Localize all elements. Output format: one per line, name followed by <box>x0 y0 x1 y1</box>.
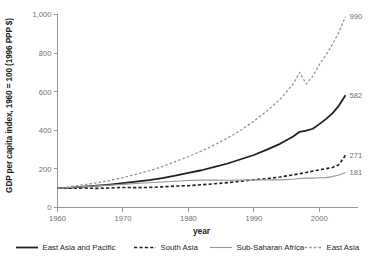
legend-label: South Asia <box>161 243 199 252</box>
y-tick-label: 0 <box>47 203 51 212</box>
chart-legend: East Asia and PacificSouth AsiaSub-Sahar… <box>16 243 360 252</box>
y-tick-label: 600 <box>39 88 52 97</box>
x-tick-label: 1990 <box>245 214 262 223</box>
series-end-label: 990 <box>350 12 363 21</box>
y-tick-label: 1,000 <box>32 10 51 19</box>
x-tick-label: 1970 <box>115 214 132 223</box>
chart-figure: GDP per capita index, 1960 = 100 (1996 P… <box>0 0 381 260</box>
x-axis-ticks: 19601970198019902000 <box>49 208 328 223</box>
series-lines <box>58 16 346 188</box>
y-tick-label: 800 <box>39 49 52 58</box>
series-line <box>58 173 346 189</box>
x-tick-label: 1960 <box>49 214 66 223</box>
x-tick-label: 2000 <box>311 214 328 223</box>
x-axis-title: year <box>193 226 211 236</box>
series-end-label: 271 <box>350 151 363 160</box>
series-end-labels: 582271181990 <box>350 12 363 177</box>
y-tick-label: 400 <box>39 126 52 135</box>
series-end-label: 181 <box>350 168 363 177</box>
legend-label: East Asia and Pacific <box>43 243 116 252</box>
series-line <box>58 16 346 188</box>
y-axis-ticks: 02004006008001,000 <box>32 10 57 212</box>
series-end-label: 582 <box>350 91 363 100</box>
legend-label: Sub-Saharan Africa <box>237 243 305 252</box>
y-tick-label: 200 <box>39 165 52 174</box>
chart-canvas: 02004006008001,000 19601970198019902000 … <box>0 0 381 260</box>
series-line <box>58 155 346 188</box>
legend-label: East Asia <box>327 243 360 252</box>
x-tick-label: 1980 <box>180 214 197 223</box>
series-line <box>58 95 346 188</box>
